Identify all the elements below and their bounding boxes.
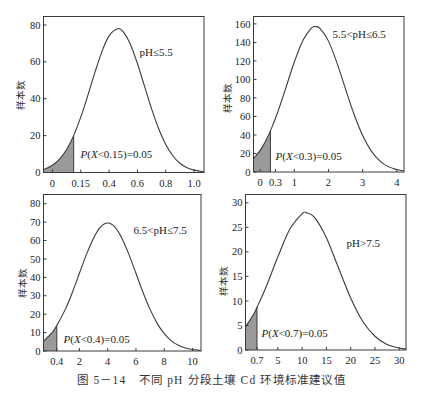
x-tick-label: 20 bbox=[345, 355, 356, 366]
x-tick-label: 10 bbox=[187, 356, 198, 367]
y-tick-label: 60 bbox=[30, 235, 41, 246]
x-tick-label: 4 bbox=[105, 356, 111, 367]
probability-label-part: <0.4)=0.05 bbox=[81, 333, 131, 346]
y-tick-label: 10 bbox=[30, 327, 41, 338]
y-tick-label: 160 bbox=[235, 19, 251, 30]
x-tick-label: 0.4 bbox=[50, 356, 64, 367]
y-tick-label: 60 bbox=[30, 56, 41, 67]
y-tick-label: 25 bbox=[232, 222, 243, 233]
y-tick-label: 40 bbox=[30, 93, 41, 104]
y-tick-label: 30 bbox=[30, 290, 41, 301]
y-tick-label: 30 bbox=[232, 197, 243, 208]
y-tick-label: 120 bbox=[235, 56, 251, 67]
ph-range-label: pH≤5.5 bbox=[140, 46, 174, 58]
y-tick-label: 0 bbox=[35, 346, 40, 357]
y-tick-label: 40 bbox=[240, 130, 251, 141]
y-tick-label: 0 bbox=[237, 345, 242, 356]
y-tick-label: 100 bbox=[235, 74, 251, 85]
ph-range-label: 6.5<pH≤7.5 bbox=[134, 224, 188, 236]
y-tick-label: 140 bbox=[235, 37, 251, 48]
figure-caption: 图 5－14 不同 pH 分段土壤 Cd 环境标准建议值 bbox=[0, 371, 423, 387]
probability-label-part: <0.3)=0.05 bbox=[293, 150, 343, 163]
y-tick-label: 80 bbox=[240, 93, 251, 104]
x-tick-label: 0 bbox=[258, 177, 263, 188]
x-tick-label: 10 bbox=[297, 355, 308, 366]
y-tick-label: 0 bbox=[35, 167, 40, 178]
y-tick-label: 20 bbox=[232, 246, 243, 257]
x-tick-label: 30 bbox=[394, 355, 405, 366]
ph-range-label: 5.5<pH≤6.5 bbox=[333, 28, 387, 40]
y-tick-label: 5 bbox=[237, 320, 242, 331]
x-tick-label: 8 bbox=[162, 356, 167, 367]
y-tick-label: 80 bbox=[30, 198, 41, 209]
y-axis-title: 样本数 bbox=[17, 268, 28, 298]
x-tick-label: 1.0 bbox=[188, 178, 201, 189]
y-tick-label: 20 bbox=[30, 130, 41, 141]
figure-canvas: 02040608000.150.40.60.81.0pH≤5.5P(X<0.15… bbox=[0, 0, 423, 396]
probability-label: P(X<0.15)=0.05 bbox=[80, 148, 153, 161]
x-tick-label: 15 bbox=[321, 355, 332, 366]
probability-label: P(X<0.3)=0.05 bbox=[275, 150, 343, 163]
y-tick-label: 15 bbox=[232, 271, 243, 282]
y-axis-title: 样本数 bbox=[218, 266, 229, 296]
x-tick-label: 1 bbox=[292, 177, 297, 188]
probability-label-part: <0.7)=0.05 bbox=[279, 327, 329, 340]
x-tick-label: 2 bbox=[77, 356, 82, 367]
x-tick-label: 5 bbox=[275, 355, 280, 366]
probability-label: P(X<0.4)=0.05 bbox=[63, 333, 131, 346]
y-axis-title: 样本数 bbox=[15, 80, 26, 110]
x-tick-label: 0.8 bbox=[159, 178, 172, 189]
probability-label-part: <0.15)=0.05 bbox=[98, 148, 153, 161]
x-tick-label: 0 bbox=[50, 178, 55, 189]
y-tick-label: 50 bbox=[30, 254, 41, 265]
probability-label: P(X<0.7)=0.05 bbox=[261, 327, 329, 340]
y-tick-label: 60 bbox=[240, 111, 251, 122]
x-tick-label: 0.15 bbox=[72, 178, 90, 189]
y-tick-label: 40 bbox=[30, 272, 41, 283]
x-tick-label: 0.7 bbox=[250, 355, 263, 366]
x-tick-label: 0.3 bbox=[269, 177, 282, 188]
y-tick-label: 80 bbox=[30, 20, 41, 31]
figure: 02040608000.150.40.60.81.0pH≤5.5P(X<0.15… bbox=[0, 0, 423, 396]
x-tick-label: 6 bbox=[133, 356, 138, 367]
x-tick-label: 3 bbox=[360, 177, 365, 188]
x-tick-label: 25 bbox=[370, 355, 381, 366]
x-tick-label: 0.4 bbox=[103, 178, 117, 189]
y-tick-label: 0 bbox=[245, 167, 250, 178]
x-tick-label: 4 bbox=[394, 177, 400, 188]
y-axis-title: 样本数 bbox=[222, 83, 233, 113]
x-tick-label: 0.6 bbox=[131, 178, 144, 189]
y-tick-label: 20 bbox=[240, 148, 251, 159]
y-tick-label: 70 bbox=[30, 217, 41, 228]
y-tick-label: 10 bbox=[232, 296, 243, 307]
y-tick-label: 20 bbox=[30, 309, 41, 320]
ph-range-label: pH>7.5 bbox=[347, 237, 381, 249]
x-tick-label: 2 bbox=[326, 177, 331, 188]
